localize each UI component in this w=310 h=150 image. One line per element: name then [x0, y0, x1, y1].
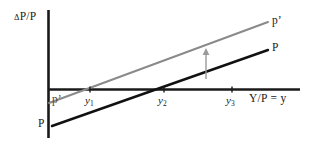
phillips-curve-figure: ΔP/P Y/P = y y1 y2 y3 p’ p’ P P	[0, 0, 310, 150]
tick-label-y1: y1	[85, 95, 94, 108]
tick-label-y2: y2	[158, 95, 167, 108]
x-axis-label: Y/P = y	[249, 93, 287, 105]
y-axis-label-text: P/P	[20, 10, 37, 22]
tick-label-y1-sub: 1	[90, 99, 94, 108]
curve-label-p-left: P	[38, 118, 44, 130]
figure-canvas	[0, 0, 310, 150]
shift-up-arrow	[203, 48, 210, 79]
y-axis-label: ΔP/P	[14, 11, 36, 23]
curve-label-p-right: P	[272, 42, 278, 54]
curve-label-p-prime-left: p’	[52, 94, 62, 106]
tick-label-y2-sub: 2	[163, 99, 167, 108]
tick-label-y3-sub: 3	[231, 99, 235, 108]
curve-label-p-prime-right: p’	[272, 15, 282, 27]
tick-label-y3: y3	[226, 95, 235, 108]
